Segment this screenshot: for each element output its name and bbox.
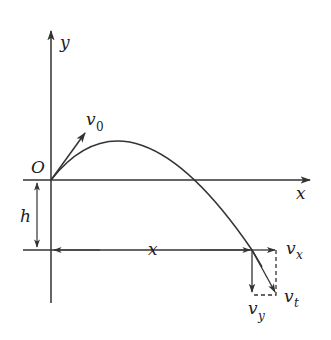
vt-label: v xyxy=(284,286,294,306)
initial-velocity-arrow xyxy=(51,133,85,180)
vy-subscript: y xyxy=(257,309,265,323)
distance-label: x xyxy=(148,239,158,259)
x-axis-label: x xyxy=(296,183,306,203)
vx-label: v xyxy=(286,238,296,258)
projectile-diagram: y x O h x v 0 v x v y v t xyxy=(0,0,331,340)
vt-arrow xyxy=(252,250,275,292)
vx-subscript: x xyxy=(296,248,303,262)
initial-velocity-label: v xyxy=(86,109,96,129)
y-axis-label: y xyxy=(59,32,70,52)
vt-subscript: t xyxy=(294,296,299,310)
vy-label: v xyxy=(248,298,258,318)
origin-label: O xyxy=(31,157,45,177)
height-label: h xyxy=(20,206,31,226)
initial-velocity-subscript: 0 xyxy=(96,120,104,134)
